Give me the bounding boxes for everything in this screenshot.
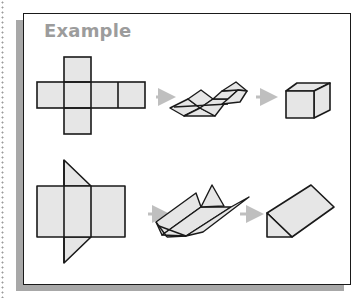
- prism-folding-diagram: [156, 185, 249, 237]
- prism-net-diagram: [37, 160, 125, 263]
- cube-folding-diagram: [170, 82, 247, 116]
- illustrations: [0, 0, 362, 298]
- triangular-prism-diagram: [267, 185, 334, 237]
- cube-net-diagram: [37, 57, 145, 134]
- cube-diagram: [286, 83, 330, 118]
